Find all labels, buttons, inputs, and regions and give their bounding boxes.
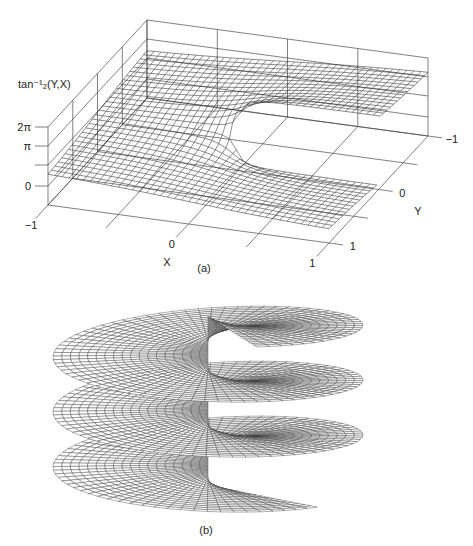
helicoid-cell xyxy=(320,325,329,327)
helicoid-cell xyxy=(174,352,183,353)
helicoid-cell xyxy=(345,326,354,328)
mesh-line xyxy=(273,177,321,219)
helicoid-cell xyxy=(53,356,62,360)
helicoid-cell xyxy=(54,470,64,474)
helicoid-cell xyxy=(88,411,97,414)
helicoid-cell xyxy=(70,356,79,359)
helicoid-cell xyxy=(148,407,157,409)
helicoid-cell xyxy=(53,352,63,356)
helicoid-cell xyxy=(97,405,107,408)
helicoid-cell xyxy=(319,326,328,327)
floor-gridline xyxy=(317,136,428,256)
helicoid-cell xyxy=(139,353,148,355)
helicoid-cell xyxy=(148,462,157,464)
helicoid-cell xyxy=(122,351,132,354)
helicoid-cell xyxy=(96,466,105,469)
panel-b-helicoid-plot: (b) xyxy=(53,306,363,536)
helicoid-cell xyxy=(345,433,354,435)
mesh-line xyxy=(96,115,377,185)
helicoid-cell xyxy=(174,462,183,463)
helicoid-cell xyxy=(207,510,221,512)
z-tick-label: 0 xyxy=(25,180,31,192)
helicoid-cell xyxy=(113,353,122,356)
helicoid-cell xyxy=(131,463,140,465)
helicoid-cell xyxy=(88,460,98,463)
panel-label-a: (a) xyxy=(197,262,210,274)
helicoid-cell xyxy=(354,380,363,382)
helicoid-cell xyxy=(79,463,88,466)
helicoid-cell xyxy=(140,351,149,353)
helicoid-cell xyxy=(70,408,79,411)
helicoid-cell xyxy=(71,359,81,363)
floor-gridline xyxy=(48,205,343,245)
helicoid-cell xyxy=(88,408,97,411)
helicoid-cell xyxy=(105,463,114,466)
helicoid-cell xyxy=(79,460,89,463)
helicoid-cell xyxy=(122,406,132,409)
helicoid-cell xyxy=(62,356,71,360)
helicoid-cell xyxy=(87,463,96,466)
helicoid-cell xyxy=(245,510,260,512)
helicoid-mesh xyxy=(53,306,363,512)
helicoid-cell xyxy=(354,378,363,380)
helicoid-cell xyxy=(62,466,71,470)
helicoid-cell xyxy=(105,405,115,408)
helicoid-cell xyxy=(53,463,62,467)
z-tick-label: 2π xyxy=(17,121,31,133)
y-tick-label: 0 xyxy=(399,187,405,199)
helicoid-cell xyxy=(346,324,355,326)
helicoid-cell xyxy=(70,353,79,356)
z-axis-title: tan⁻¹₂(Y,X) xyxy=(18,78,71,90)
helicoid-cell xyxy=(62,463,71,467)
helicoid-cell xyxy=(337,435,346,437)
helicoid-cell xyxy=(354,324,363,326)
x-axis-title: X xyxy=(163,256,171,268)
helicoid-cell xyxy=(230,400,245,402)
panel-label-b: (b) xyxy=(199,524,212,536)
helicoid-cell xyxy=(70,463,79,466)
helicoid-cell xyxy=(96,463,105,466)
mesh-line xyxy=(280,178,328,220)
surface-mesh xyxy=(48,51,428,229)
helicoid-cell xyxy=(131,408,140,410)
helicoid-cell xyxy=(337,324,346,326)
mesh-line xyxy=(259,175,307,216)
helicoid-cell xyxy=(219,455,233,457)
helicoid-cell xyxy=(346,379,355,381)
helicoid-cell xyxy=(70,466,79,469)
helicoid-cell xyxy=(53,415,63,419)
helicoid-cell xyxy=(337,434,346,436)
helicoid-cell xyxy=(79,353,88,356)
helicoid-cell xyxy=(230,507,243,509)
helicoid-cell xyxy=(131,461,140,463)
helicoid-cell xyxy=(337,379,346,381)
helicoid-cell xyxy=(354,435,363,437)
mesh-line xyxy=(373,72,421,116)
helicoid-cell xyxy=(122,353,131,355)
helicoid-cell xyxy=(131,353,140,355)
helicoid-cell xyxy=(174,407,183,408)
helicoid-cell xyxy=(105,356,114,359)
y-axis-title: Y xyxy=(414,205,422,217)
helicoid-cell xyxy=(156,353,165,355)
helicoid-cell xyxy=(79,411,88,414)
helicoid-cell xyxy=(131,406,140,408)
helicoid-cell xyxy=(62,359,72,363)
helicoid-cell xyxy=(354,433,363,435)
helicoid-cell xyxy=(244,455,259,457)
helicoid-cell xyxy=(96,353,105,356)
panel-a-surface-plot: 0π2π−101−101 tan⁻¹₂(Y,X) X Y (a) xyxy=(17,20,458,274)
helicoid-cell xyxy=(148,351,157,353)
figure: 0π2π−101−101 tan⁻¹₂(Y,X) X Y (a) (b) xyxy=(0,0,473,546)
axes-box xyxy=(35,20,442,256)
helicoid-cell xyxy=(114,406,124,409)
helicoid-cell xyxy=(139,461,148,463)
helicoid-cell xyxy=(139,464,148,466)
helicoid-cell xyxy=(79,466,88,469)
helicoid-cell xyxy=(97,460,107,463)
floor-gridline xyxy=(147,98,442,138)
helicoid-cell xyxy=(122,461,132,463)
helicoid-cell xyxy=(205,400,219,402)
helicoid-cell xyxy=(105,411,114,414)
helicoid-cell xyxy=(231,509,245,511)
